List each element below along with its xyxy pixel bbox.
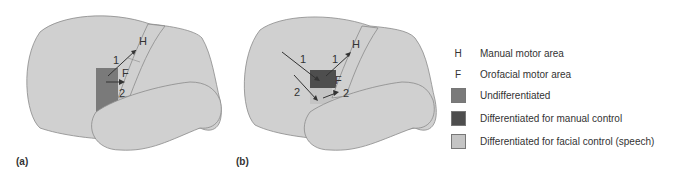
label-2-input: 2	[294, 86, 300, 98]
legend-item-manual-motor-area: H Manual motor area	[450, 44, 564, 62]
legend-key-H: H	[450, 45, 466, 61]
swatch-facial-control	[451, 134, 466, 149]
brain-diagram-a: H F 1 2	[0, 0, 230, 172]
legend-item-orofacial-motor-area: F Orofacial motor area	[450, 65, 571, 83]
label-1-input: 1	[300, 53, 306, 65]
legend-item-facial-control: Differentiated for facial control (speec…	[450, 132, 654, 150]
legend-label: Undifferentiated	[480, 90, 550, 101]
label-1-output: 1	[332, 53, 338, 65]
panel-label-a: (a)	[16, 156, 28, 167]
label-2-output: 2	[343, 87, 349, 99]
swatch-manual-control	[451, 111, 466, 126]
label-2: 2	[119, 87, 125, 99]
legend-label: Differentiated for facial control (speec…	[480, 136, 654, 147]
legend-key-F: F	[450, 66, 466, 82]
label-1: 1	[113, 54, 119, 66]
manual-region	[310, 70, 336, 88]
legend-label: Manual motor area	[480, 48, 564, 59]
legend-label: Orofacial motor area	[480, 69, 571, 80]
panel-label-b: (b)	[236, 156, 249, 167]
legend-item-undifferentiated: Undifferentiated	[450, 86, 550, 104]
legend-label: Differentiated for manual control	[480, 113, 622, 124]
label-H: H	[139, 35, 147, 47]
label-F: F	[335, 74, 342, 86]
brain-diagram-b: H F 1 2 1 2	[230, 0, 450, 172]
label-F: F	[122, 67, 129, 79]
label-H: H	[352, 38, 360, 50]
legend-item-manual-control: Differentiated for manual control	[450, 109, 622, 127]
swatch-undifferentiated	[451, 88, 466, 103]
